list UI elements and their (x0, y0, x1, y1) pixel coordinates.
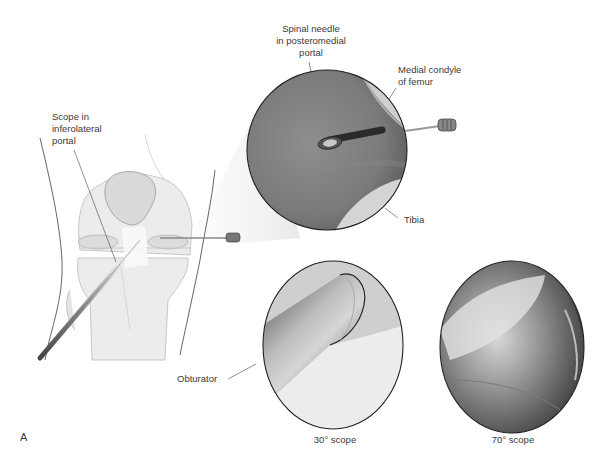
spinal-needle-label: Spinal needle in posteromedial portal (268, 23, 354, 59)
spinal-needle-label-line2: in posteromedial (268, 35, 354, 47)
medial-condyle-label-line2: of femur (398, 76, 461, 88)
medial-condyle-label-line1: Medial condyle (398, 64, 461, 76)
30-degree-scope-view (240, 255, 420, 440)
obturator-label: Obturator (177, 373, 217, 385)
medial-condyle-label: Medial condyle of femur (398, 64, 461, 88)
tibia-label: Tibia (404, 214, 424, 226)
scope-portal-label-line2: inferolateral (52, 123, 102, 135)
obturator-leader-line (228, 364, 256, 379)
illustration-canvas (0, 0, 607, 468)
70-degree-caption: 70° scope (478, 434, 548, 446)
scope-portal-label: Scope in inferolateral portal (52, 111, 102, 147)
30-degree-caption: 30° scope (300, 434, 370, 446)
panel-label: A (20, 431, 27, 443)
scope-portal-label-line3: portal (52, 135, 102, 147)
scope-portal-label-line1: Scope in (52, 111, 102, 123)
70-degree-scope-view (440, 260, 585, 433)
knee-illustration (40, 135, 240, 360)
tibia-leader-line (385, 208, 398, 218)
spinal-needle-label-line3: portal (268, 47, 354, 59)
spinal-needle-label-line1: Spinal needle (268, 23, 354, 35)
